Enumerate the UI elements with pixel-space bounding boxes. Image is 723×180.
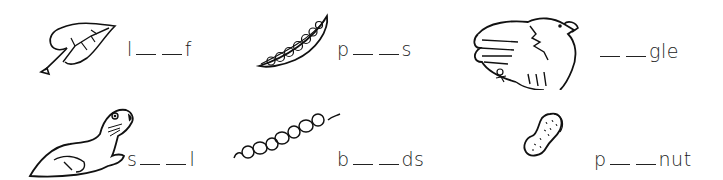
word-prefix: p	[594, 148, 607, 170]
beads-icon	[232, 100, 342, 162]
word-puzzle: p s	[337, 38, 412, 60]
word-puzzle: s l	[127, 148, 195, 170]
word-suffix: nut	[659, 148, 692, 170]
letter-blank[interactable]	[140, 163, 160, 165]
word-prefix: b	[337, 148, 350, 170]
word-prefix: l	[127, 38, 133, 60]
letter-blank[interactable]	[610, 163, 630, 165]
letter-blank[interactable]	[166, 163, 186, 165]
word-suffix: gle	[649, 40, 679, 62]
word-puzzle: b ds	[337, 148, 425, 170]
word-suffix: ds	[402, 148, 425, 170]
word-puzzle: l f	[127, 38, 192, 60]
eagle-icon	[468, 12, 588, 90]
pea-pod-icon	[255, 12, 335, 70]
word-puzzle: p nut	[594, 148, 692, 170]
word-suffix: s	[402, 38, 412, 60]
letter-blank[interactable]	[600, 55, 620, 57]
letter-blank[interactable]	[379, 53, 399, 55]
letter-blank[interactable]	[353, 163, 373, 165]
word-puzzle: gle	[600, 40, 679, 62]
seal-icon	[24, 104, 134, 180]
letter-blank[interactable]	[353, 53, 373, 55]
word-suffix: f	[185, 38, 192, 60]
letter-blank[interactable]	[626, 55, 646, 57]
letter-blank[interactable]	[636, 163, 656, 165]
word-suffix: l	[189, 148, 195, 170]
letter-blank[interactable]	[136, 53, 156, 55]
peanut-icon	[520, 110, 566, 160]
letter-blank[interactable]	[162, 53, 182, 55]
leaf-icon	[35, 18, 120, 76]
word-prefix: p	[337, 38, 350, 60]
letter-blank[interactable]	[379, 163, 399, 165]
word-prefix: s	[127, 148, 137, 170]
